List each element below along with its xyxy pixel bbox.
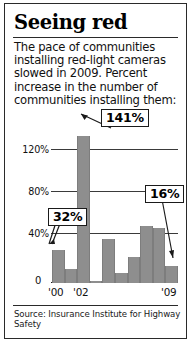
title-divider [13, 37, 178, 38]
x-axis-labels: '00 '02 '09 [51, 286, 182, 300]
bar-2001 [65, 269, 78, 283]
bar-2007 [140, 226, 153, 283]
bar-2000 [52, 250, 65, 283]
source-note: Source: Insurance Institute for Highway … [14, 309, 182, 329]
y-tick-zero: 0 [35, 275, 41, 286]
x-tick-2002: '02 [73, 286, 88, 298]
bar-chart: 120% 80% 40% 0 '00 [5, 112, 186, 297]
bar-2003 [90, 281, 103, 283]
callout-16: 16% [145, 185, 184, 203]
bar-2006 [128, 257, 141, 283]
page-title: Seeing red [14, 12, 127, 34]
bar-2009 [165, 266, 178, 283]
bar-2004 [102, 239, 115, 283]
x-tick-2009: '09 [161, 286, 176, 298]
y-axis-labels: 120% 80% 40% [5, 116, 49, 283]
deck-text: The pace of communities installing red-l… [14, 41, 182, 107]
callout-141: 141% [101, 109, 149, 127]
infographic-inner: Seeing red The pace of communities insta… [5, 4, 186, 338]
y-tick-120: 120% [22, 144, 49, 155]
infographic-frame: Seeing red The pace of communities insta… [4, 3, 187, 339]
y-tick-80: 80% [28, 186, 49, 197]
x-tick-2000: '00 [48, 286, 63, 298]
callout-32: 32% [48, 208, 87, 226]
bar-2005 [115, 273, 128, 283]
source-divider [13, 305, 178, 306]
